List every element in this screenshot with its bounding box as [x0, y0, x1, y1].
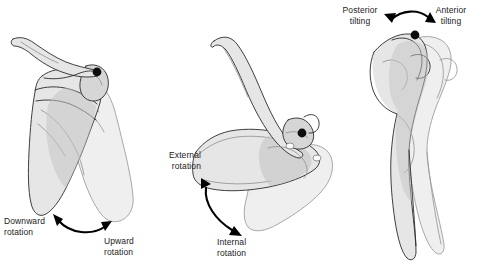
scapular-motions-figure: Downward rotation Upward rotation Extern…: [0, 0, 486, 272]
label-external-rotation-line1: External: [155, 150, 201, 161]
pivot-point-mid: [298, 129, 307, 138]
label-upward-rotation-line2: rotation: [104, 247, 134, 258]
label-anterior-tilting-line1: Anterior: [427, 5, 475, 16]
panel-rotation-graphic: [11, 38, 133, 233]
panel-tilting-graphic: [370, 12, 457, 260]
label-anterior-tilting-line2: tilting: [427, 16, 475, 27]
anatomy-illustration: [0, 0, 486, 272]
pivot-point-left: [93, 68, 102, 77]
label-upward-rotation-line1: Upward: [104, 236, 134, 247]
label-downward-rotation: Downward rotation: [4, 216, 45, 237]
label-downward-rotation-line1: Downward: [4, 216, 45, 227]
panel-rotation-axial-graphic: [193, 37, 333, 236]
label-posterior-tilting: Posterior tilting: [336, 5, 384, 26]
label-posterior-tilting-line2: tilting: [336, 16, 384, 27]
label-anterior-tilting: Anterior tilting: [427, 5, 475, 26]
pivot-point-right: [411, 31, 420, 40]
label-external-rotation-line2: rotation: [155, 161, 201, 172]
label-external-rotation: External rotation: [155, 150, 201, 171]
label-internal-rotation-line2: rotation: [217, 248, 246, 259]
label-posterior-tilting-line1: Posterior: [336, 5, 384, 16]
label-internal-rotation-line1: Internal: [217, 237, 246, 248]
label-internal-rotation: Internal rotation: [217, 237, 246, 258]
label-downward-rotation-line2: rotation: [4, 227, 45, 238]
label-upward-rotation: Upward rotation: [104, 236, 134, 257]
